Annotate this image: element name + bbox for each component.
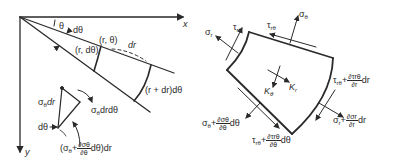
y-axis-label: y [25,148,30,157]
inset-rotated-label: σθdrdθ [91,106,118,116]
k-theta-label: Kθ [264,87,273,97]
inset-triangle [58,87,80,129]
inset-side-label: σθdr [38,98,55,108]
theta-label: θ [59,22,64,31]
polar-stress-element-figure: x y θ dθ (r, θ) (r, dθ) dr (r + dr)dθ σθ… [0,0,396,165]
sigma-theta-bottom-label: σθ+∂σθ∂θdθ [202,116,240,131]
dtheta-label: dθ [73,26,83,35]
inset-bottom-label: (σθ+∂σθ∂θdθ)dr [60,141,112,156]
tau-bottom-label: τrθ+∂τrθ∂θdθ [252,133,291,148]
dr-label: dr [128,41,136,50]
tau-right-label: τrθ+∂τrθ∂rdr [333,73,370,88]
inset-angle-label: dθ [38,123,48,132]
point-r-dtheta-label: (r, dθ) [75,46,99,55]
tau-left-label: τrθ [233,23,242,33]
outer-arc-label: (r + dr)dθ [145,86,182,95]
x-axis-label: x [183,20,188,29]
k-r-label: Kr [289,83,297,93]
point-r-theta-label: (r, θ) [99,36,118,45]
sigma-r-right-label: σr+∂σr∂rdr [333,113,366,128]
sigma-r-left-label: σr [205,28,213,38]
dr-dashed-arc [112,49,146,61]
outer-arc [134,65,151,101]
sigma-theta-top-label: σθ [299,10,308,20]
tau-top-label: τrθ [267,21,276,31]
